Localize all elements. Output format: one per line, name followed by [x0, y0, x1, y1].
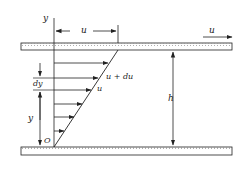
velocity-arrows — [54, 63, 108, 131]
u-local-label: u — [97, 85, 102, 93]
u-plus-du-label: u + du — [106, 73, 133, 81]
top-velocity-dimension — [56, 25, 118, 43]
y-height-label: y — [28, 114, 33, 123]
dy-label: dy — [33, 80, 43, 88]
plate-velocity-label: u — [209, 26, 215, 35]
top-plate — [21, 43, 232, 50]
y-axis-label: y — [43, 14, 48, 23]
bottom-plate — [21, 147, 232, 155]
velocity-profile-line — [54, 50, 118, 147]
gap-height-label: h — [168, 94, 174, 103]
top-velocity-label: u — [81, 26, 87, 35]
origin-label: O — [44, 137, 51, 145]
